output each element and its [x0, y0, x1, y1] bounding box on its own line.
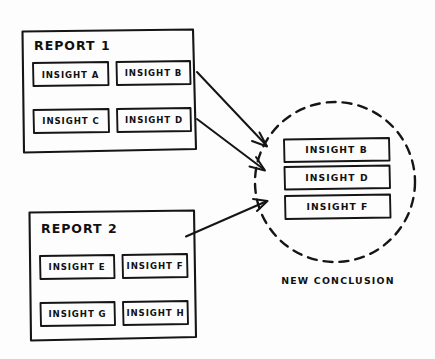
conclusion-insight-f-label: INSIGHT F — [306, 201, 368, 212]
report-1-title: REPORT 1 — [34, 38, 111, 53]
report-1-insight-c[interactable]: INSIGHT C — [34, 109, 110, 133]
new-conclusion-caption: NEW CONCLUSION — [281, 275, 395, 286]
report-2-insight-e-label: INSIGHT E — [49, 262, 106, 272]
report-2-insight-e[interactable]: INSIGHT E — [40, 255, 115, 279]
report-2-insight-f-label: INSIGHT F — [127, 261, 184, 271]
report-1-insight-d[interactable]: INSIGHT D — [117, 108, 191, 132]
arrow-insight-b-to-conclusion — [197, 72, 267, 147]
report-1-insight-a-label: INSIGHT A — [42, 70, 100, 80]
report-2-insight-f[interactable]: INSIGHT F — [123, 254, 188, 278]
report-1-insight-a[interactable]: INSIGHT A — [33, 62, 109, 86]
arrow-insight-d-to-conclusion — [197, 119, 265, 171]
report-2-insight-h-label: INSIGHT H — [126, 308, 184, 318]
report-2-title: REPORT 2 — [41, 221, 118, 236]
report-1-insight-b[interactable]: INSIGHT B — [117, 61, 191, 85]
new-conclusion-group[interactable]: INSIGHT B INSIGHT D INSIGHT F NEW CONCLU… — [255, 102, 415, 286]
conclusion-insight-b-label: INSIGHT B — [305, 144, 368, 155]
report-2-insight-h[interactable]: INSIGHT H — [123, 301, 188, 325]
conclusion-insight-b[interactable]: INSIGHT B — [284, 138, 390, 162]
conclusion-insight-d-label: INSIGHT D — [305, 172, 368, 183]
report-1-insight-c-label: INSIGHT C — [42, 116, 99, 126]
conclusion-insight-f[interactable]: INSIGHT F — [285, 195, 391, 220]
report-1-group[interactable]: REPORT 1 INSIGHT A INSIGHT B INSIGHT C I… — [23, 30, 197, 153]
insight-synthesis-diagram: REPORT 1 INSIGHT A INSIGHT B INSIGHT C I… — [0, 0, 435, 359]
conclusion-insight-d[interactable]: INSIGHT D — [285, 166, 391, 190]
report-2-insight-g[interactable]: INSIGHT G — [41, 302, 116, 326]
report-1-insight-b-label: INSIGHT B — [125, 68, 183, 78]
report-2-group[interactable]: REPORT 2 INSIGHT E INSIGHT F INSIGHT G I… — [30, 211, 197, 341]
arrow-report-2-to-conclusion — [186, 199, 268, 237]
report-2-insight-g-label: INSIGHT G — [48, 309, 106, 319]
report-1-insight-d-label: INSIGHT D — [125, 115, 183, 125]
diagram-canvas: REPORT 1 INSIGHT A INSIGHT B INSIGHT C I… — [0, 0, 435, 359]
